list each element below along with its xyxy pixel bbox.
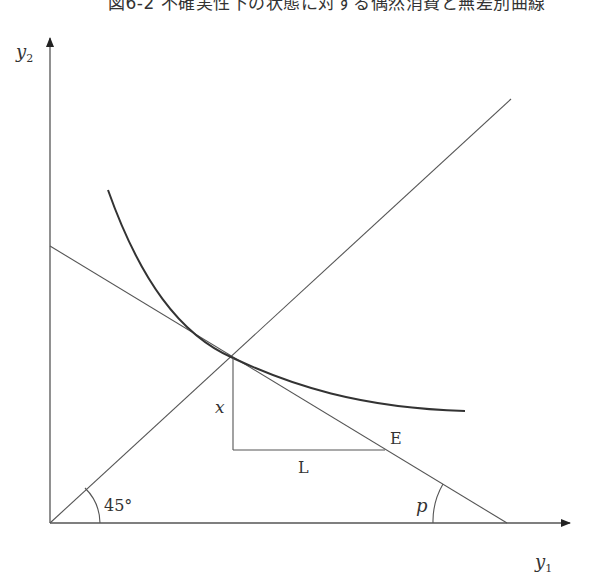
certainty-line-45deg	[50, 99, 511, 523]
indifference-curve	[108, 190, 465, 411]
diagram-canvas: y2 y1 45° p E x L	[0, 0, 589, 577]
angle-45-label: 45°	[104, 496, 132, 515]
budget-line	[50, 246, 507, 523]
segment-x-label: x	[215, 397, 225, 417]
angle-p-arc	[433, 484, 443, 523]
point-E-label: E	[390, 429, 402, 448]
segment-L-label: L	[298, 458, 309, 477]
angle-45-arc	[85, 488, 100, 523]
x-axis-label: y1	[534, 551, 552, 575]
y-axis-label: y2	[15, 41, 33, 65]
price-label: p	[416, 495, 428, 516]
